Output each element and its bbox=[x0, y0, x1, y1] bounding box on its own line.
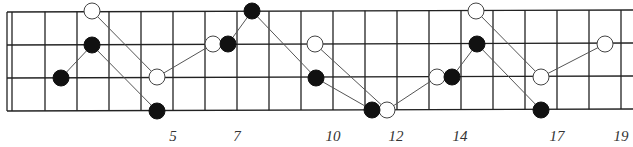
filled-note-dot-icon bbox=[84, 37, 100, 53]
filled-note-dot-icon bbox=[364, 102, 380, 118]
fret-number-label: 17 bbox=[550, 128, 567, 144]
filled-note-dot-icon bbox=[149, 103, 165, 119]
filled-note-dot-icon bbox=[244, 3, 260, 19]
open-note-dot-icon bbox=[84, 3, 100, 19]
string-line bbox=[7, 10, 633, 12]
open-note-dot-icon bbox=[429, 69, 445, 85]
fret-number-label: 5 bbox=[169, 128, 177, 144]
fret-number-labels: 571012141719 bbox=[169, 128, 629, 144]
open-note-dot-icon bbox=[468, 3, 484, 19]
fret-number-label: 14 bbox=[453, 128, 469, 144]
filled-note-dot-icon bbox=[533, 102, 549, 118]
filled-note-dot-icon bbox=[469, 36, 485, 52]
fret-number-label: 7 bbox=[233, 128, 242, 144]
filled-note-dot-icon bbox=[220, 36, 236, 52]
open-note-dot-icon bbox=[379, 102, 395, 118]
fret-number-label: 19 bbox=[614, 128, 630, 144]
open-note-dot-icon bbox=[149, 69, 165, 85]
fret-number-label: 12 bbox=[389, 128, 405, 144]
open-note-dot-icon bbox=[307, 36, 323, 52]
fretboard-diagram: 571012141719 bbox=[0, 0, 633, 147]
filled-note-dot-icon bbox=[53, 70, 69, 86]
filled-note-dot-icon bbox=[308, 70, 324, 86]
open-note-dot-icon bbox=[205, 36, 221, 52]
fretboard-grid bbox=[7, 10, 633, 111]
filled-note-dot-icon bbox=[444, 69, 460, 85]
open-note-dot-icon bbox=[597, 36, 613, 52]
filled-connector bbox=[228, 11, 372, 110]
fret-number-label: 10 bbox=[326, 128, 342, 144]
open-note-dot-icon bbox=[533, 69, 549, 85]
